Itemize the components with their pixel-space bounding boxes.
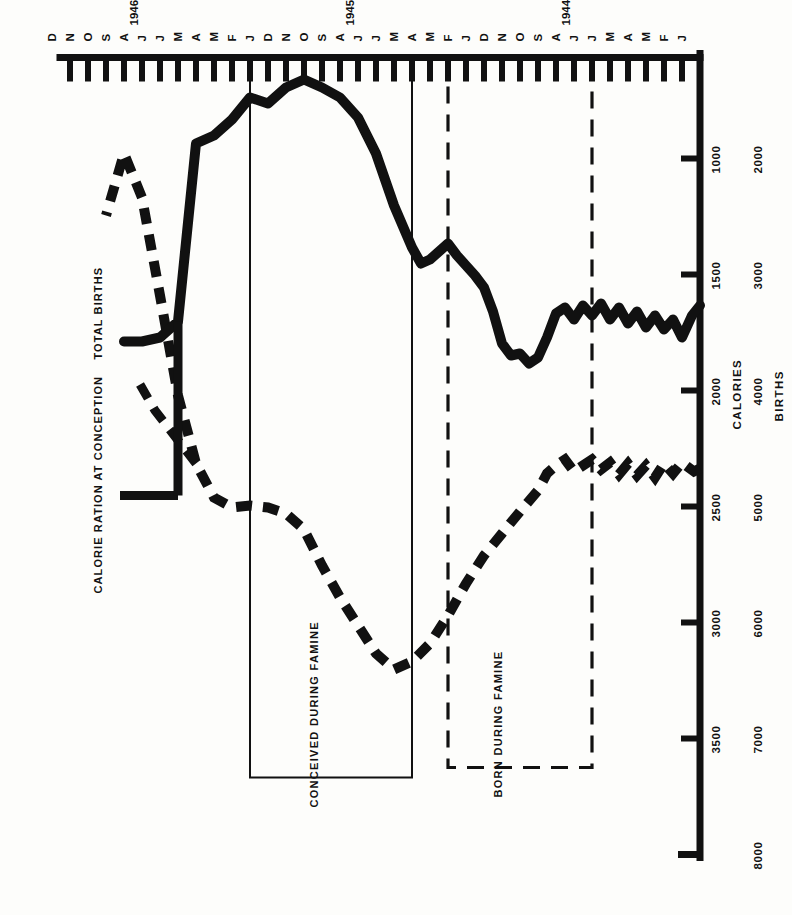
calories-tick-3000: 3000 bbox=[710, 609, 722, 637]
month-label-1946-f: F bbox=[226, 34, 238, 41]
month-label-1946-d: D bbox=[46, 33, 58, 41]
month-label-1944-f: F bbox=[658, 34, 670, 41]
calories-tick-1500: 1500 bbox=[710, 261, 722, 289]
calories-tick-3500: 3500 bbox=[710, 725, 722, 753]
month-label-1946-n: N bbox=[64, 33, 76, 41]
series-calorie-ration bbox=[120, 79, 700, 495]
annotation-bracket-conceived bbox=[250, 63, 412, 777]
month-label-1946-j3: J bbox=[136, 35, 148, 41]
births-tick-2000: 2000 bbox=[752, 145, 764, 173]
births-axis-title: BIRTHS bbox=[773, 370, 785, 421]
month-label-1945-j: J bbox=[460, 35, 472, 41]
month-label-1944-m: M bbox=[640, 31, 652, 41]
month-label-1944-j: J bbox=[676, 35, 688, 41]
year-label-1946: 1946 bbox=[128, 0, 140, 25]
month-label-1945-s: S bbox=[316, 33, 328, 41]
month-label-1944-a2: A bbox=[550, 33, 562, 41]
month-label-1946-o: O bbox=[82, 32, 94, 41]
month-label-1946-j: J bbox=[244, 35, 256, 41]
month-label-1945-a: A bbox=[406, 33, 418, 41]
month-label-1944-n: N bbox=[496, 33, 508, 41]
month-label-1944-m2: M bbox=[604, 31, 616, 41]
calories-tick-2500: 2500 bbox=[710, 493, 722, 521]
births-tick-8000: 8000 bbox=[752, 841, 764, 869]
month-label-1944-d: D bbox=[478, 33, 490, 41]
year-label-1945: 1945 bbox=[344, 0, 356, 25]
month-label-1946-a: A bbox=[190, 33, 202, 41]
month-label-1945-n: N bbox=[280, 33, 292, 41]
month-label-1946-m: M bbox=[208, 31, 220, 41]
calories-tick-1000: 1000 bbox=[710, 145, 722, 173]
annotation-bracket-born bbox=[448, 63, 592, 767]
month-label-1944-a: A bbox=[622, 33, 634, 41]
month-label-1946-s: S bbox=[100, 33, 112, 41]
month-label-1944-s: S bbox=[532, 33, 544, 41]
month-label-1944-j3: J bbox=[568, 35, 580, 41]
famine-chart: 3500 3000 2500 2000 1500 1000 CALORIES 8… bbox=[0, 0, 792, 915]
calories-axis-title: CALORIES bbox=[731, 358, 743, 429]
births-tick-7000: 7000 bbox=[752, 725, 764, 753]
value-axis bbox=[676, 53, 700, 857]
month-label-1945-o: O bbox=[298, 32, 310, 41]
month-label-1945-m: M bbox=[424, 31, 436, 41]
annotation-label-born-during-famine: BORN DURING FAMINE bbox=[492, 650, 504, 797]
legend-label-calorie-ration: CALORIE RATION AT CONCEPTION bbox=[92, 375, 104, 593]
month-label-1945-f: F bbox=[442, 34, 454, 41]
births-tick-4000: 4000 bbox=[752, 377, 764, 405]
month-label-1946-j2: J bbox=[154, 35, 166, 41]
rotated-figure-wrapper: 3500 3000 2500 2000 1500 1000 CALORIES 8… bbox=[0, 0, 792, 915]
figure-page: 3500 3000 2500 2000 1500 1000 CALORIES 8… bbox=[0, 0, 792, 915]
time-axis bbox=[60, 57, 700, 81]
month-label-1946-m2: M bbox=[172, 31, 184, 41]
month-label-1945-m2: M bbox=[388, 31, 400, 41]
month-label-1946-a2: A bbox=[118, 33, 130, 41]
month-label-1945-j3: J bbox=[352, 35, 364, 41]
births-tick-6000: 6000 bbox=[752, 609, 764, 637]
month-label-1944-o: O bbox=[514, 32, 526, 41]
month-label-1945-j2: J bbox=[370, 35, 382, 41]
births-tick-3000: 3000 bbox=[752, 261, 764, 289]
month-label-1945-a2: A bbox=[334, 33, 346, 41]
month-label-1944-j2: J bbox=[586, 35, 598, 41]
chart-svg bbox=[0, 0, 792, 915]
legend-label-total-births: TOTAL BIRTHS bbox=[92, 266, 104, 359]
month-label-1945-d: D bbox=[262, 33, 274, 41]
calories-tick-2000: 2000 bbox=[710, 377, 722, 405]
year-label-1944: 1944 bbox=[560, 0, 572, 25]
annotation-label-conceived-during-famine: CONCEIVED DURING FAMINE bbox=[308, 621, 320, 807]
births-tick-5000: 5000 bbox=[752, 493, 764, 521]
